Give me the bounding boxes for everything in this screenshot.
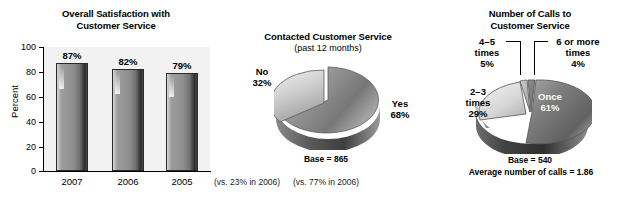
calls-base-note: Base = 540 xyxy=(460,155,600,166)
bar-highlight xyxy=(59,66,64,89)
bar-2005 xyxy=(166,73,198,171)
pie-label-four-five-line1: 4–5 xyxy=(466,36,508,47)
y-tick-mark xyxy=(39,147,43,148)
y-tick-mark xyxy=(39,97,43,98)
y-axis-line xyxy=(43,47,44,172)
y-tick-mark xyxy=(39,47,43,48)
bar-highlight xyxy=(169,76,174,97)
contacted-pie-graphic xyxy=(274,58,382,150)
bar-2006 xyxy=(112,69,144,171)
contacted-pie-svg xyxy=(274,58,382,150)
y-tick-mark xyxy=(39,171,43,172)
leader-line-six-or-more xyxy=(534,41,535,75)
bar-chart-title: Overall Satisfaction with Customer Servi… xyxy=(24,8,208,31)
bar-2007 xyxy=(56,63,88,171)
pie-label-yes-name: Yes xyxy=(380,98,420,109)
y-tick-label-100: 100 xyxy=(12,43,36,52)
bar-highlight xyxy=(115,72,120,94)
pie-label-six-or-more-line2: times xyxy=(546,47,610,58)
pie-label-six-or-more-line1: 6 or more xyxy=(546,36,610,47)
contacted-pie-subtitle: (past 12 months) xyxy=(240,43,416,54)
x-tick-label-2005: 2005 xyxy=(158,176,206,187)
calls-pie-title-line1: Number of Calls to xyxy=(438,8,622,20)
pie-label-two-three-line2: times xyxy=(454,97,502,108)
pie-label-two-three: 2–3 times 29% xyxy=(454,86,502,119)
x-axis-line xyxy=(43,171,211,172)
calls-average-note: Average number of calls = 1.86 xyxy=(430,167,632,178)
pie-label-two-three-line1: 2–3 xyxy=(454,86,502,97)
pie-label-once-name: Once xyxy=(528,91,572,102)
pie-label-once: Once 61% xyxy=(528,91,572,113)
bar-value-2007: 87% xyxy=(52,50,92,61)
pie-label-no: No 32% xyxy=(240,66,284,88)
bar-value-2005: 79% xyxy=(162,60,202,71)
leader-line-four-five xyxy=(520,41,521,75)
pie-label-two-three-value: 29% xyxy=(454,108,502,119)
calls-pie-title: Number of Calls to Customer Service xyxy=(438,8,622,31)
pie-label-yes: Yes 68% xyxy=(380,98,420,120)
pie-label-four-five: 4–5 times 5% xyxy=(466,36,508,69)
y-tick-label-0: 0 xyxy=(12,167,36,176)
pie-label-yes-value: 68% xyxy=(380,109,420,120)
y-tick-mark xyxy=(39,122,43,123)
contacted-pie-panel: Contacted Customer Service (past 12 mont… xyxy=(232,0,424,201)
pie-label-six-or-more-value: 4% xyxy=(546,58,610,69)
three-chart-figure: Overall Satisfaction with Customer Servi… xyxy=(0,0,636,201)
calls-pie-panel: Number of Calls to Customer Service xyxy=(424,0,636,201)
pie-label-no-name: No xyxy=(240,66,284,77)
y-axis-label: Percent xyxy=(9,72,20,132)
pie-label-no-value: 32% xyxy=(240,77,284,88)
y-tick-label-20: 20 xyxy=(12,143,36,152)
bar-chart-panel: Overall Satisfaction with Customer Servi… xyxy=(0,0,232,201)
pie-label-four-five-line2: times xyxy=(466,47,508,58)
y-tick-mark xyxy=(39,72,43,73)
leader-line-four-five-elbow xyxy=(506,41,521,42)
calls-pie-title-line2: Customer Service xyxy=(438,20,622,32)
x-tick-label-2007: 2007 xyxy=(48,176,96,187)
bar-chart-title-line1: Overall Satisfaction with xyxy=(24,8,208,20)
pie-label-four-five-value: 5% xyxy=(466,58,508,69)
contacted-pie-title: Contacted Customer Service xyxy=(240,31,416,43)
x-tick-label-2006: 2006 xyxy=(104,176,152,187)
bar-value-2006: 82% xyxy=(108,56,148,67)
pie-label-six-or-more: 6 or more times 4% xyxy=(546,36,610,69)
contacted-footnote: (vs. 77% in 2006) xyxy=(256,177,396,187)
contacted-base-note: Base = 865 xyxy=(260,154,392,165)
bar-chart-title-line2: Customer Service xyxy=(24,20,208,32)
pie-label-once-value: 61% xyxy=(528,102,572,113)
